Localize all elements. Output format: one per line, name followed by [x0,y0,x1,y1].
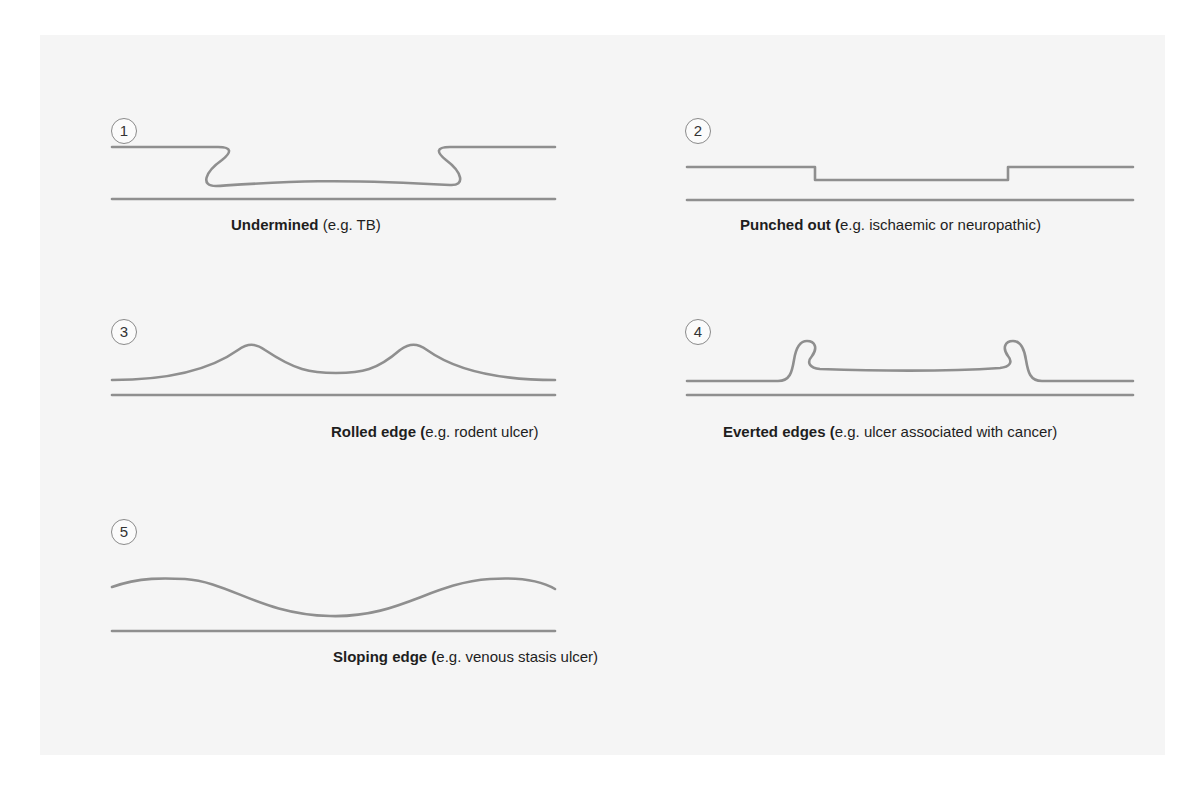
figure-caption: Sloping edge (e.g. venous stasis ulcer) [333,648,598,665]
sloping-edge-diagram [0,0,1188,798]
caption-detail: e.g. venous stasis ulcer) [436,648,598,665]
caption-title: Sloping edge ( [333,648,436,665]
